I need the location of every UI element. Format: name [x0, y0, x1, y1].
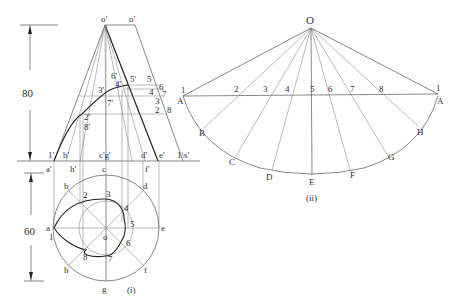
- point-b: b: [64, 181, 69, 191]
- chord-point-4: 4: [285, 84, 290, 94]
- tl-label-8: 8: [167, 105, 172, 115]
- diameter-dimension: 60: [24, 173, 44, 281]
- arc-point-G: G: [388, 152, 395, 162]
- label-d-prime: d': [141, 150, 148, 160]
- label-3-prime: 3': [98, 85, 105, 95]
- chord-point-1-right: 1: [436, 83, 441, 93]
- chord-point-3: 3: [263, 84, 268, 94]
- arc-point-C: C: [229, 157, 235, 167]
- height-dimension: 80: [20, 25, 58, 161]
- apex-label-2: o': [129, 14, 136, 24]
- caption-i: (i): [127, 285, 136, 295]
- label-5-prime: 5': [130, 74, 137, 84]
- arc-point-A-right: A: [437, 96, 444, 106]
- apex-O: O: [306, 14, 314, 26]
- arc-point-H: H: [417, 127, 424, 137]
- height-label: 80: [22, 87, 34, 99]
- tl-label-4: 4: [149, 87, 154, 97]
- helix-top-curve: [54, 199, 125, 257]
- tl-label-5: 5: [147, 74, 152, 84]
- point-g: g: [102, 284, 107, 294]
- arc-point-E: E: [309, 177, 315, 187]
- helix-point-2: 2: [83, 190, 88, 200]
- top-view: a b c d e f g h 1 2 3 4 5 6 7 8 o: [46, 164, 165, 294]
- apex-label-1: o': [101, 14, 108, 24]
- label-e-prime: e': [159, 150, 165, 160]
- point-f: f: [144, 265, 147, 275]
- chord-point-7: 7: [350, 84, 355, 94]
- point-h: h: [64, 265, 69, 275]
- arc-point-D: D: [266, 172, 273, 182]
- chord-line: [183, 94, 438, 96]
- helix-point-3: 3: [106, 189, 111, 199]
- helix-point-1: 1: [49, 232, 54, 242]
- point-c: c: [102, 164, 106, 174]
- label-cg-prime: c'g': [99, 150, 111, 160]
- arc-point-A-left: A: [177, 96, 184, 106]
- figure-ii: O A B C D E F G H A 1 2 3 4 5 6 7 8 1 (i…: [177, 14, 444, 203]
- drawing-canvas: 80 60: [0, 0, 457, 308]
- point-e: e: [161, 223, 165, 233]
- chord-point-6: 6: [328, 84, 333, 94]
- label-8-prime: 8': [84, 122, 91, 132]
- caption-ii: (ii): [306, 193, 317, 203]
- tl-label-2: 2: [155, 105, 160, 115]
- chord-point-5: 5: [310, 84, 315, 94]
- arc-point-B: B: [199, 128, 205, 138]
- label-2-prime: 2': [84, 112, 91, 122]
- arc-point-F: F: [350, 170, 355, 180]
- helix-point-7: 7: [108, 254, 113, 264]
- development-arc: [183, 96, 438, 174]
- label-b-prime: b': [63, 150, 70, 160]
- label-h-prime: h': [70, 164, 77, 174]
- helix-point-4: 4: [124, 203, 129, 213]
- label-1-s-prime: 1\s': [177, 150, 190, 160]
- label-f-prime: f': [145, 164, 150, 174]
- helix-point-8: 8: [83, 252, 88, 262]
- helix-point-5: 5: [130, 219, 135, 229]
- label-a-prime: a': [46, 164, 52, 174]
- center-o: o: [103, 232, 108, 242]
- label-6-prime: 6': [111, 71, 118, 81]
- figure-i: 80 60: [17, 14, 200, 295]
- tl-label-7: 7: [162, 89, 167, 99]
- chord-point-1-left: 1: [181, 85, 186, 95]
- helix-point-6: 6: [126, 238, 131, 248]
- label-7-prime: 7': [107, 98, 114, 108]
- chord-point-8: 8: [379, 84, 384, 94]
- point-d: d: [143, 181, 148, 191]
- chord-point-2: 2: [234, 84, 239, 94]
- label-1-prime: 1': [48, 150, 55, 160]
- diameter-label: 60: [24, 225, 36, 237]
